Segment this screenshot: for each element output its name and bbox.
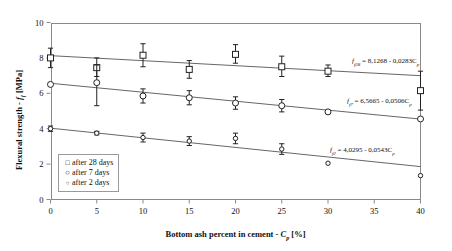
data-point-circle bbox=[233, 100, 239, 106]
x-tick-label: 25 bbox=[278, 206, 287, 216]
data-point-small-circle bbox=[95, 131, 99, 135]
data-point-square bbox=[48, 55, 54, 61]
x-title-main: Bottom ash percent in cement - bbox=[165, 229, 280, 239]
y-tick-label: 6 bbox=[39, 88, 43, 98]
y-tick-label: 0 bbox=[39, 195, 43, 205]
data-point-square bbox=[279, 64, 285, 70]
chart-canvas: 05101520253035400246810Bottom ash percen… bbox=[0, 0, 452, 251]
data-point-circle bbox=[325, 109, 331, 115]
data-point-square bbox=[418, 88, 424, 94]
data-point-small-circle bbox=[326, 161, 330, 165]
equation-label: ff28 = 8,1268 - 0,0283Cp bbox=[352, 57, 420, 67]
legend-item-2[interactable]: ○after 2 days bbox=[63, 178, 113, 188]
equation-body: = 6,5665 - 0,0506C bbox=[353, 97, 410, 105]
legend-item-label: after 28 days bbox=[72, 158, 113, 168]
x-tick-label: 40 bbox=[416, 206, 425, 216]
y-tick-label: 10 bbox=[35, 18, 44, 28]
y-title-unit: [MPa] bbox=[14, 70, 24, 95]
y-title-symbol: f bbox=[14, 97, 24, 100]
x-tick-label: 35 bbox=[370, 206, 379, 216]
data-point-circle bbox=[418, 116, 424, 122]
data-point-small-circle bbox=[187, 139, 191, 143]
data-point-small-circle bbox=[418, 173, 422, 177]
chart-root: 05101520253035400246810Bottom ash percen… bbox=[0, 0, 452, 251]
data-point-square bbox=[325, 68, 331, 74]
x-tick-label: 30 bbox=[324, 206, 333, 216]
data-point-square bbox=[140, 52, 146, 58]
data-point-circle bbox=[140, 93, 146, 99]
x-title-unit: [%] bbox=[289, 229, 305, 239]
x-axis-title: Bottom ash percent in cement - Cp [%] bbox=[165, 229, 305, 241]
data-point-small-circle bbox=[48, 127, 52, 131]
y-tick-label: 2 bbox=[39, 159, 43, 169]
equation-body: = 8,1268 - 0,0283C bbox=[360, 57, 417, 65]
x-tick-label: 15 bbox=[185, 206, 194, 216]
y-title-main: Flexural strength - bbox=[14, 100, 24, 170]
legend-item-label: after 7 days bbox=[72, 168, 109, 178]
data-point-small-circle bbox=[280, 147, 284, 151]
data-point-small-circle bbox=[233, 136, 237, 140]
equation-label: ff7 = 6,5665 - 0,0506Cp bbox=[347, 97, 412, 107]
data-point-circle bbox=[48, 81, 54, 87]
y-tick-label: 4 bbox=[39, 124, 44, 134]
legend-circle-icon: ○ bbox=[63, 168, 72, 178]
y-title-sub: f bbox=[20, 95, 26, 97]
legend-circle-icon: ○ bbox=[63, 178, 72, 188]
equation-tail-sub: p bbox=[408, 102, 412, 107]
equation-body: = 4,0295 - 0,0543C bbox=[336, 146, 393, 154]
y-axis-title: Flexural strength - ff [MPa] bbox=[14, 70, 26, 170]
data-point-circle bbox=[279, 103, 285, 109]
y-tick-label: 8 bbox=[39, 53, 43, 63]
x-tick-label: 0 bbox=[48, 206, 52, 216]
legend-item-0[interactable]: □after 28 days bbox=[63, 158, 113, 168]
equation-label: ff2 = 4,0295 - 0,0543Cp bbox=[330, 146, 395, 156]
data-point-circle bbox=[94, 80, 100, 86]
data-point-small-circle bbox=[141, 135, 145, 139]
x-tick-label: 5 bbox=[95, 206, 99, 216]
equation-tail-sub: p bbox=[391, 151, 395, 156]
data-point-circle bbox=[186, 95, 192, 101]
equation-tail-sub: p bbox=[416, 62, 420, 67]
legend-square-icon: □ bbox=[63, 158, 72, 168]
legend-item-1[interactable]: ○after 7 days bbox=[63, 168, 113, 178]
legend-item-label: after 2 days bbox=[72, 178, 109, 188]
data-point-square bbox=[186, 66, 192, 72]
x-tick-label: 10 bbox=[139, 206, 148, 216]
chart-legend: □after 28 days○after 7 days○after 2 days bbox=[58, 154, 119, 192]
data-point-square bbox=[233, 51, 239, 57]
x-tick-label: 20 bbox=[231, 206, 240, 216]
